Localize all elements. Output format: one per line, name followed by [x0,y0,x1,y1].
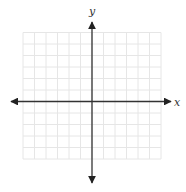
coordinate-plane: y x [0,0,186,192]
x-axis-label: x [174,96,181,109]
y-axis-label: y [88,5,96,18]
